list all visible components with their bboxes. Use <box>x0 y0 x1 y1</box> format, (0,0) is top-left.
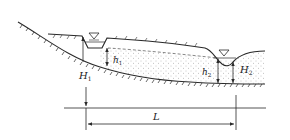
water-level-triangle-icon <box>89 33 99 39</box>
groundwater-diagram: H1 h1 h2 H2 L <box>0 0 290 140</box>
water-level-triangle-icon <box>219 50 229 56</box>
L-label: L <box>152 111 160 122</box>
H1-label: H1 <box>78 70 92 82</box>
diagram-canvas: H1 h1 h2 H2 L <box>0 0 290 140</box>
